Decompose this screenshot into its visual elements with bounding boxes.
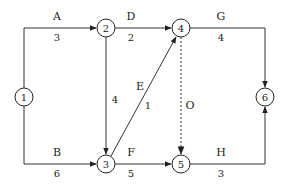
activity-e: E 1 <box>111 37 176 156</box>
activity-d-name: D <box>127 10 136 23</box>
node-6-label: 6 <box>262 92 268 103</box>
node-5: 5 <box>172 155 190 173</box>
activity-a-duration: 3 <box>54 32 60 43</box>
activity-d-duration: 2 <box>128 32 134 43</box>
activity-b: B 6 <box>24 106 96 179</box>
activity-e-name: E <box>136 80 144 93</box>
node-4-label: 4 <box>178 23 184 34</box>
node-4: 4 <box>172 19 190 37</box>
activity-f-name: F <box>127 146 135 159</box>
node-6: 6 <box>256 88 274 106</box>
activity-b-name: B <box>53 146 61 159</box>
dummy-activity-o: O <box>181 37 195 154</box>
node-5-label: 5 <box>178 159 184 170</box>
node-3-label: 3 <box>103 159 109 170</box>
node-2-label: 2 <box>103 23 109 34</box>
activity-c-duration: 4 <box>112 94 118 105</box>
node-3: 3 <box>97 155 115 173</box>
activity-d: D 2 <box>115 10 171 43</box>
activity-f: F 5 <box>115 146 171 179</box>
activity-e-duration: 1 <box>145 100 151 111</box>
node-1-label: 1 <box>21 92 27 103</box>
activity-h-duration: 3 <box>218 168 224 179</box>
activity-c: 4 <box>106 37 118 154</box>
activity-a: A 3 <box>24 10 96 88</box>
activity-g-name: G <box>217 10 226 23</box>
activity-f-duration: 5 <box>128 168 134 179</box>
activity-h: H 3 <box>190 107 265 179</box>
activity-g-duration: 4 <box>218 32 224 43</box>
network-diagram: A 3 B 6 4 D 2 E 1 F 5 O G 4 <box>0 0 285 190</box>
activity-g: G 4 <box>190 10 265 87</box>
node-2: 2 <box>97 19 115 37</box>
activity-b-duration: 6 <box>54 168 60 179</box>
activity-h-name: H <box>216 146 226 159</box>
activity-a-name: A <box>52 10 62 23</box>
dummy-activity-o-name: O <box>185 99 194 112</box>
node-1: 1 <box>15 88 33 106</box>
